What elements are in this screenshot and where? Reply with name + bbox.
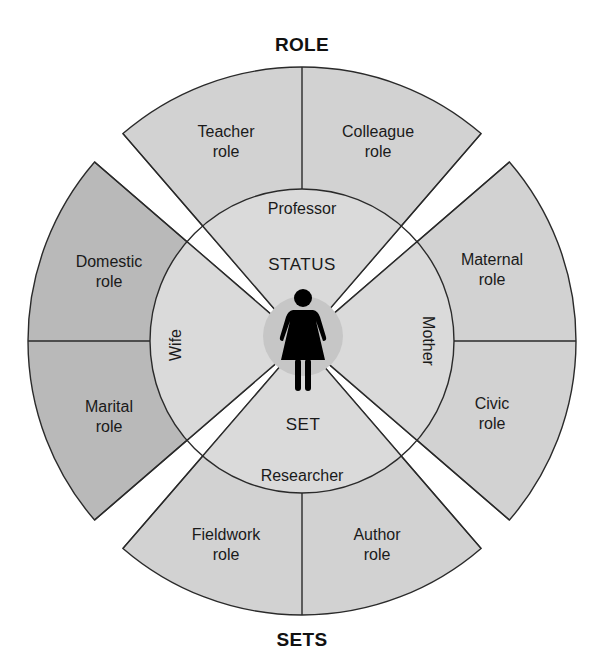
center-label-set: SET xyxy=(286,415,321,435)
center-label-status: STATUS xyxy=(268,255,336,275)
role-teacher: Teacher role xyxy=(198,122,255,162)
status-professor: Professor xyxy=(268,200,336,218)
role-set-diagram: ROLE SETS Teacher role Colleague role Ma… xyxy=(0,0,589,663)
status-mother: Mother xyxy=(419,316,437,366)
title-sets: SETS xyxy=(277,629,328,651)
role-fieldwork: Fieldwork role xyxy=(192,525,260,565)
title-role: ROLE xyxy=(275,34,329,56)
status-researcher: Researcher xyxy=(261,467,344,485)
role-civic: Civic role xyxy=(475,394,510,434)
role-maternal: Maternal role xyxy=(461,250,523,290)
role-marital: Marital role xyxy=(85,397,133,437)
role-author: Author role xyxy=(353,525,400,565)
role-domestic: Domestic role xyxy=(76,252,143,292)
role-colleague: Colleague role xyxy=(342,122,414,162)
diagram-graphic xyxy=(0,0,589,663)
status-wife: Wife xyxy=(167,329,185,361)
